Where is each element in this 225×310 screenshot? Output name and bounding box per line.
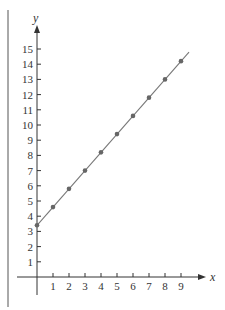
x-tick-label: 2 xyxy=(66,280,72,292)
x-tick-label: 8 xyxy=(162,280,168,292)
x-tick-label: 9 xyxy=(178,280,184,292)
data-point xyxy=(83,168,88,173)
y-tick-label: 1 xyxy=(28,256,34,268)
y-tick-label: 3 xyxy=(28,225,34,237)
data-point xyxy=(51,205,56,210)
x-axis-label: x xyxy=(209,270,216,284)
y-tick-label: 11 xyxy=(22,104,33,116)
x-axis-arrow-icon xyxy=(198,274,206,280)
y-tick-label: 6 xyxy=(28,180,34,192)
x-tick-label: 3 xyxy=(82,280,88,292)
y-tick-label: 15 xyxy=(22,43,34,55)
y-tick-label: 14 xyxy=(22,58,34,70)
data-point xyxy=(99,150,104,155)
data-point xyxy=(163,77,168,82)
y-tick-label: 12 xyxy=(22,89,33,101)
y-tick-label: 13 xyxy=(22,73,34,85)
x-tick-label: 7 xyxy=(146,280,152,292)
data-point xyxy=(67,187,72,192)
line-chart: 123456789123456789101112131415 x y xyxy=(0,0,225,310)
x-tick-label: 1 xyxy=(50,280,56,292)
data-point xyxy=(115,132,120,137)
y-tick-label: 2 xyxy=(28,241,34,253)
x-tick-label: 4 xyxy=(98,280,104,292)
data-point xyxy=(131,114,136,119)
y-tick-label: 9 xyxy=(28,134,34,146)
y-tick-label: 7 xyxy=(28,165,34,177)
y-tick-label: 10 xyxy=(22,119,34,131)
x-tick-label: 5 xyxy=(114,280,120,292)
y-tick-label: 5 xyxy=(28,195,34,207)
y-tick-label: 4 xyxy=(28,210,34,222)
data-point xyxy=(179,59,184,64)
tick-marks xyxy=(37,49,181,277)
data-point xyxy=(147,95,152,100)
data-series xyxy=(35,52,189,228)
data-point xyxy=(35,223,40,228)
tick-labels: 123456789123456789101112131415 xyxy=(22,43,184,292)
y-axis-label: y xyxy=(32,11,39,25)
x-tick-label: 6 xyxy=(130,280,136,292)
y-axis-arrow-icon xyxy=(34,25,40,33)
y-tick-label: 8 xyxy=(28,149,34,161)
